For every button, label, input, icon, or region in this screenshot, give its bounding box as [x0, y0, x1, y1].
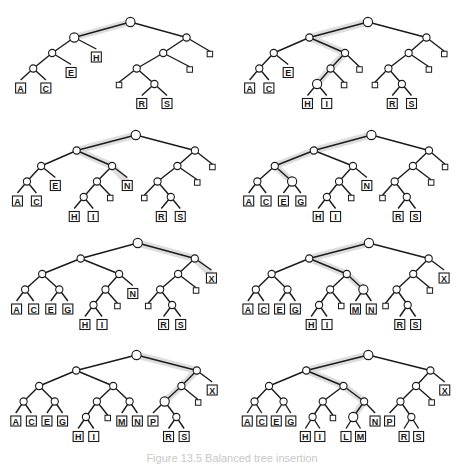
key-label: G — [59, 417, 66, 427]
empty-leaf — [195, 180, 201, 186]
key-leaf-i: I — [322, 320, 332, 331]
key-label: S — [178, 320, 184, 330]
tree-edge — [309, 243, 369, 259]
tree-edge — [136, 135, 195, 151]
key-label: S — [164, 99, 170, 109]
internal-node — [268, 270, 275, 277]
key-label: N — [134, 417, 141, 427]
panel-6: ACEGHIMNRSX — [243, 238, 449, 330]
internal-node — [284, 286, 291, 293]
internal-node — [160, 397, 169, 406]
tree-edge — [368, 22, 427, 38]
internal-node — [133, 65, 140, 72]
key-leaf-s: S — [414, 432, 424, 443]
key-label: G — [297, 197, 304, 207]
search-path-highlight — [309, 243, 369, 290]
tree-edge — [309, 22, 368, 38]
panel-7: ACEGHIMNPRSX — [11, 350, 217, 442]
empty-leaf — [427, 288, 433, 294]
key-leaf-r: R — [387, 99, 397, 110]
internal-node — [39, 270, 46, 277]
key-leaf-a: A — [245, 83, 255, 94]
tree-edge — [41, 151, 76, 167]
panel-1: ACEHRS — [16, 17, 213, 109]
empty-leaf — [330, 415, 336, 421]
root-node — [363, 17, 372, 26]
key-leaf-i: I — [89, 432, 99, 443]
key-leaf-n: N — [122, 181, 132, 192]
tree-edge — [371, 135, 429, 151]
key-leaf-c: C — [264, 83, 274, 94]
key-leaf-a: A — [12, 304, 22, 315]
internal-node — [252, 286, 259, 293]
key-leaf-h: H — [300, 432, 310, 443]
key-label: S — [413, 320, 419, 330]
key-leaf-h: H — [306, 320, 316, 331]
internal-node — [82, 413, 89, 420]
internal-node — [193, 367, 200, 374]
key-leaf-e: E — [42, 416, 52, 427]
internal-node — [327, 65, 334, 72]
key-leaf-s: S — [162, 99, 172, 110]
search-path-highlight — [309, 22, 368, 84]
key-label: I — [319, 432, 322, 442]
internal-node — [427, 367, 434, 374]
key-label: E — [48, 305, 54, 315]
key-leaf-e: E — [283, 68, 293, 79]
key-leaf-x: X — [207, 385, 217, 396]
key-leaf-i: I — [97, 320, 107, 331]
tree-edge — [77, 135, 136, 151]
key-label: I — [334, 212, 337, 222]
key-label: N — [368, 305, 375, 315]
tree-edge — [306, 355, 368, 371]
key-label: M — [357, 432, 365, 442]
key-label: A — [245, 197, 252, 207]
tree-edge — [163, 38, 186, 54]
internal-node — [349, 162, 356, 169]
empty-leaf — [195, 400, 201, 406]
internal-node — [256, 65, 263, 72]
key-leaf-l: L — [341, 432, 351, 443]
internal-node — [408, 413, 415, 420]
internal-node — [271, 162, 278, 169]
key-label: L — [343, 432, 349, 442]
tree-edge — [137, 53, 164, 69]
key-leaf-g: G — [286, 416, 296, 427]
key-label: A — [14, 197, 21, 207]
key-label: H — [75, 432, 82, 442]
empty-leaf — [428, 180, 434, 186]
key-label: N — [364, 181, 371, 191]
internal-node — [173, 413, 180, 420]
key-leaf-n: N — [128, 289, 138, 300]
internal-node — [341, 49, 348, 56]
key-leaf-i: I — [315, 432, 325, 443]
key-label: H — [304, 99, 311, 109]
internal-node — [361, 398, 368, 405]
root-node — [131, 130, 140, 139]
internal-node — [56, 286, 63, 293]
internal-node — [425, 255, 432, 262]
internal-node — [303, 367, 310, 374]
key-leaf-s: S — [411, 212, 421, 223]
internal-node — [265, 382, 272, 389]
key-leaf-r: R — [395, 320, 405, 331]
internal-node — [359, 285, 368, 294]
panel-3: ACEHINRS — [12, 130, 215, 222]
search-path-highlight — [137, 355, 197, 402]
key-leaf-h: H — [302, 99, 312, 110]
key-leaf-r: R — [159, 320, 169, 331]
key-leaf-n: N — [370, 416, 380, 427]
key-label: N — [372, 417, 379, 427]
key-leaf-r: R — [156, 212, 166, 223]
internal-node — [306, 34, 313, 41]
key-label: H — [93, 53, 100, 63]
panel-8: ACEGHILMNPRSX — [242, 350, 449, 442]
empty-leaf — [187, 67, 193, 73]
internal-node — [403, 193, 410, 200]
key-leaf-g: G — [63, 304, 73, 315]
internal-node — [288, 177, 297, 186]
empty-leaf — [116, 82, 122, 88]
internal-node — [20, 398, 27, 405]
key-leaf-x: X — [439, 273, 449, 284]
